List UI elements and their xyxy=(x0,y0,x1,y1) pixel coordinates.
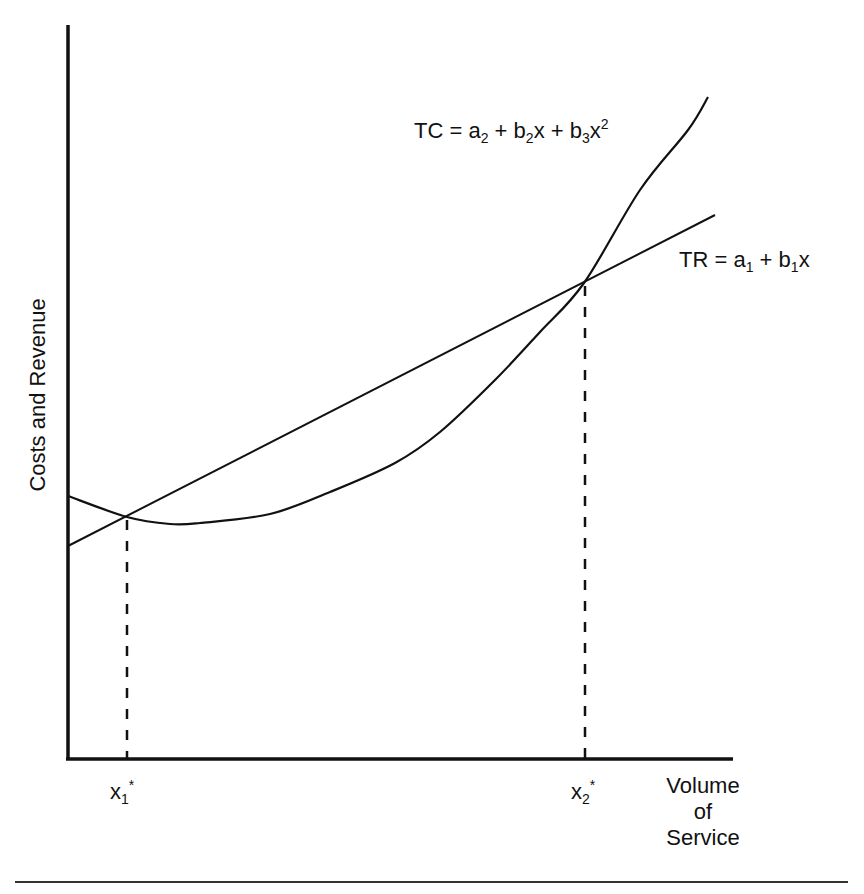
x-axis-label-line: Service xyxy=(666,825,739,851)
term-b: b xyxy=(570,118,582,143)
term-a: a xyxy=(733,247,745,272)
plus: + xyxy=(551,118,564,143)
exponent: 2 xyxy=(601,116,609,132)
y-axis-label: Costs and Revenue xyxy=(25,298,51,491)
subscript: 2 xyxy=(526,130,534,146)
tr-lhs: TR xyxy=(679,247,708,272)
equals: = xyxy=(714,247,727,272)
var-x: x xyxy=(534,118,545,143)
x-axis-label-line: Volume xyxy=(666,773,739,799)
subscript: 1 xyxy=(791,259,799,275)
star: * xyxy=(129,777,134,793)
tc-lhs: TC xyxy=(414,118,443,143)
plus: + xyxy=(760,247,773,272)
x1-star-label: x1* xyxy=(110,778,134,806)
tc-equation-label: TC = a2 + b2x + b3x2 xyxy=(414,117,609,145)
x2-star-label: x2* xyxy=(571,778,595,806)
term-b: b xyxy=(779,247,791,272)
x-axis-label-line: of xyxy=(666,799,739,825)
subscript: 2 xyxy=(481,130,489,146)
tc-curve xyxy=(68,97,708,525)
equals: = xyxy=(449,118,462,143)
tr-equation-label: TR = a1 + b1x xyxy=(679,249,810,274)
subscript: 3 xyxy=(582,130,590,146)
var-x: x xyxy=(799,247,810,272)
var-x: x xyxy=(571,779,582,804)
term-a: a xyxy=(468,118,480,143)
subscript: 1 xyxy=(121,791,129,807)
break-even-chart: Costs and Revenue TC = a2 + b2x + b3x2 T… xyxy=(0,0,864,894)
var-x: x xyxy=(110,779,121,804)
term-b: b xyxy=(514,118,526,143)
star: * xyxy=(590,777,595,793)
var-x: x xyxy=(590,118,601,143)
x-axis-label: Volume of Service xyxy=(666,773,739,851)
subscript: 2 xyxy=(582,791,590,807)
subscript: 1 xyxy=(746,259,754,275)
tr-line xyxy=(68,215,715,546)
plus: + xyxy=(495,118,508,143)
bottom-rule xyxy=(15,881,848,883)
